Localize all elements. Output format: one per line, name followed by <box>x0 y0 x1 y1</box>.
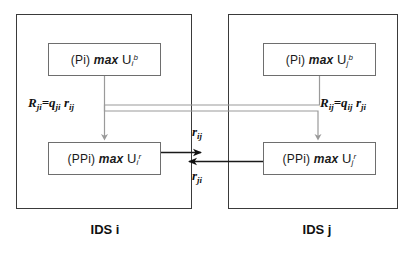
box-pi-j-formula: (Pi) max Ujb <box>286 52 353 67</box>
caption-ids-i: IDS i <box>60 222 150 237</box>
equation-r-ij: Rij=qij rji <box>320 95 366 111</box>
box-pi-i: (Pi) max Uib <box>48 43 161 76</box>
box-pi-i-formula: (Pi) max Uib <box>71 52 138 67</box>
equation-r-ji: Rji=qji rij <box>28 95 74 111</box>
arrow-label-r-ij: rij <box>192 124 202 140</box>
box-ppi-j: (PPi) max Ujr <box>263 142 376 175</box>
box-ppi-i: (PPi) max Uir <box>48 142 161 175</box>
box-ppi-j-formula: (PPi) max Ujr <box>283 151 357 166</box>
box-pi-j: (Pi) max Ujb <box>263 43 376 76</box>
box-ppi-i-formula: (PPi) max Uir <box>68 151 142 166</box>
ids-interaction-diagram: (Pi) max Uib (Pi) max Ujb (PPi) max Uir … <box>0 0 412 259</box>
arrow-label-r-ji: rji <box>192 168 202 184</box>
caption-ids-j: IDS j <box>272 222 362 237</box>
